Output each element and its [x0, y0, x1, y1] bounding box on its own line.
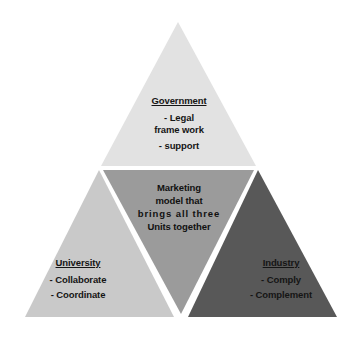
- triangle-diagram: Government - Legal frame work - support …: [0, 0, 357, 340]
- triangle-shapes: [0, 0, 357, 340]
- government-region[interactable]: [101, 22, 256, 166]
